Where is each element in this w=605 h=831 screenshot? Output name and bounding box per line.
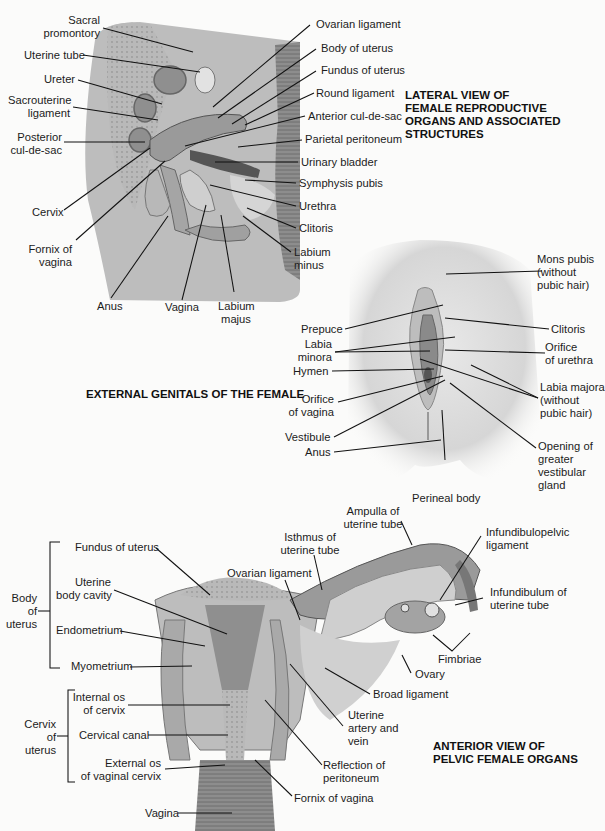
label-ovarian-ligament: Ovarian ligament	[316, 18, 401, 31]
group-cervix-of-uterus: Cervixofuterus	[20, 718, 56, 757]
label-labia-minora: Labiaminora	[290, 338, 332, 364]
label-sacrouterine-ligament: Sacrouterineligament	[8, 94, 70, 120]
label-myometrium: Myometrium	[71, 660, 133, 673]
label-uterine-artery-vein: Uterineartery andvein	[348, 709, 398, 748]
label-posterior-cul-de-sac: Posteriorcul-de-sac	[10, 131, 62, 157]
label-vagina: Vagina	[165, 301, 199, 314]
label-body-of-uterus: Body of uterus	[321, 42, 393, 55]
label-infundibulopelvic-ligament: Infundibulopelvicligament	[486, 526, 569, 552]
label-fundus-of-uterus: Fundus of uterus	[321, 64, 405, 77]
label-isthmus: Isthmus ofuterine tube	[276, 531, 344, 557]
label-ureter: Ureter	[44, 73, 75, 86]
label-ovarian-ligament-anterior: Ovarian ligament	[227, 567, 312, 580]
label-labia-majora: Labia majora(withoutpubic hair)	[540, 381, 605, 420]
label-ovary: Ovary	[415, 668, 445, 681]
label-ampulla: Ampulla ofuterine tube	[339, 505, 407, 531]
label-orifice-of-vagina: Orificeof vagina	[282, 393, 334, 419]
label-fimbriae: Fimbriae	[438, 653, 482, 666]
label-opening-greater-vestibular-gland: Opening ofgreatervestibulargland	[538, 440, 593, 492]
label-mons-pubis: Mons pubis(withoutpubic hair)	[537, 253, 594, 292]
label-symphysis-pubis: Symphysis pubis	[299, 177, 383, 190]
label-anus-external: Anus	[305, 446, 331, 459]
label-fornix-of-vagina-anterior: Fornix of vagina	[294, 792, 374, 805]
label-urethra: Urethra	[299, 200, 336, 213]
label-hymen: Hymen	[293, 365, 328, 378]
label-cervix: Cervix	[32, 206, 64, 219]
label-broad-ligament: Broad ligament	[373, 688, 448, 701]
label-external-os: External osof vaginal cervix	[80, 757, 161, 783]
title-anterior-view: ANTERIOR VIEW OF PELVIC FEMALE ORGANS	[433, 740, 578, 766]
label-uterine-tube: Uterine tube	[24, 49, 85, 62]
label-fundus-of-uterus-anterior: Fundus of uterus	[75, 541, 159, 554]
title-lateral-view: LATERAL VIEW OF FEMALE REPRODUCTIVE ORGA…	[405, 89, 560, 141]
label-perineal-body: Perineal body	[412, 492, 480, 505]
label-vagina-anterior: Vagina	[145, 807, 179, 820]
label-sacral-promontory: Sacralpromontory	[40, 14, 100, 40]
label-infundibulum: Infundibulum ofuterine tube	[490, 586, 567, 612]
group-body-of-uterus: Bodyofuterus	[4, 592, 37, 631]
title-external-genitals: EXTERNAL GENITALS OF THE FEMALE	[86, 388, 304, 401]
label-vestibule: Vestibule	[285, 431, 330, 444]
label-labium-majus: Labiummajus	[218, 300, 254, 326]
label-reflection-of-peritoneum: Reflection ofperitoneum	[323, 759, 385, 785]
label-labium-minus: Labiumminus	[294, 246, 331, 272]
label-anus: Anus	[97, 300, 123, 313]
label-fornix-of-vagina: Fornix ofvagina	[26, 243, 72, 269]
label-parietal-peritoneum: Parietal peritoneum	[305, 133, 402, 146]
label-clitoris-lateral: Clitoris	[299, 222, 333, 235]
label-cervical-canal: Cervical canal	[79, 729, 149, 742]
label-uterine-body-cavity: Uterinebody cavity	[56, 576, 111, 602]
label-prepuce: Prepuce	[301, 323, 343, 336]
label-clitoris-external: Clitoris	[551, 323, 585, 336]
label-endometrium: Endometrium	[56, 624, 123, 637]
label-internal-os: Internal osof cervix	[70, 691, 125, 717]
label-anterior-cul-de-sac: Anterior cul-de-sac	[308, 110, 402, 123]
label-urinary-bladder: Urinary bladder	[301, 156, 377, 169]
label-orifice-of-urethra: Orificeof urethra	[545, 341, 593, 367]
label-round-ligament: Round ligament	[316, 87, 394, 100]
